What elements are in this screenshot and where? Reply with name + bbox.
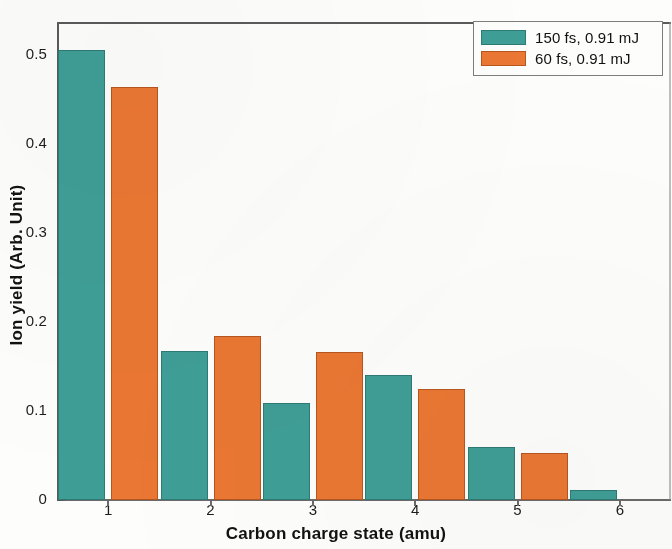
- legend: 150 fs, 0.91 mJ 60 fs, 0.91 mJ: [473, 21, 663, 76]
- x-tick-mark-3: [312, 499, 314, 506]
- x-axis-title: Carbon charge state (amu): [0, 524, 672, 544]
- plot-frame: [57, 22, 671, 500]
- y-axis-title: Ion yield (Arb. Unit): [7, 115, 27, 415]
- legend-entry-1: 60 fs, 0.91 mJ: [481, 48, 655, 69]
- legend-label-series-a: 150 fs, 0.91 mJ: [535, 29, 639, 46]
- x-tick-mark-1: [107, 499, 109, 506]
- y-tick-label: 0.1: [26, 401, 47, 418]
- y-tick-label: 0.2: [26, 312, 47, 329]
- x-tick-mark-6: [619, 499, 621, 506]
- plot-frame-right-edge: [669, 22, 671, 500]
- y-tick-mark: [57, 499, 65, 501]
- y-tick-label: 0.5: [26, 45, 47, 62]
- y-tick-mark: [57, 321, 65, 323]
- x-axis-line: [57, 499, 671, 501]
- y-tick-label: 0: [39, 490, 47, 507]
- legend-label-series-b: 60 fs, 0.91 mJ: [535, 50, 631, 67]
- y-tick-label: 0.4: [26, 134, 47, 151]
- legend-entry-0: 150 fs, 0.91 mJ: [481, 27, 655, 48]
- x-tick-mark-5: [517, 499, 519, 506]
- y-tick-mark: [57, 232, 65, 234]
- y-tick-label: 0.3: [26, 223, 47, 240]
- y-tick-mark: [57, 143, 65, 145]
- legend-swatch-icon-series-a: [481, 30, 526, 45]
- chart-figure: 00.10.20.30.40.5 Ion yield (Arb. Unit) 1…: [0, 0, 672, 549]
- x-tick-mark-2: [210, 499, 212, 506]
- y-tick-mark: [57, 410, 65, 412]
- legend-swatch-icon-series-b: [481, 51, 526, 66]
- x-tick-mark-4: [414, 499, 416, 506]
- y-tick-mark: [57, 54, 65, 56]
